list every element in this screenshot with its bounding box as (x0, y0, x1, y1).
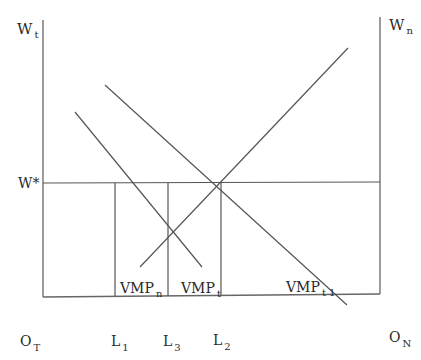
label-vmp-n-main: VMP (120, 280, 154, 296)
right-axis-label: Wn (389, 18, 413, 38)
curve-vmp-t1 (105, 85, 347, 305)
label-vmp-t1-main: VMP (286, 279, 320, 295)
curve-vmp-n (140, 48, 348, 267)
marker-l2-sub: 2 (224, 341, 230, 352)
label-vmp-n-sub: n (156, 288, 162, 299)
curve-vmp-t (75, 112, 202, 267)
marker-l1: L1 (111, 334, 129, 355)
label-vmp-t-sub: t (217, 288, 221, 299)
origin-right-sub: N (402, 338, 411, 349)
right-axis-label-sub: n (406, 25, 412, 36)
label-vmp-t-main: VMP (181, 280, 215, 296)
left-axis-label-main: W (17, 20, 32, 38)
wage-label-text: W* (18, 175, 39, 191)
origin-left-sub: T (33, 342, 40, 353)
left-axis-label: Wt (17, 22, 38, 42)
wage-label: W* (18, 176, 39, 190)
right-axis-label-main: W (389, 16, 404, 34)
origin-right-main: O (389, 329, 400, 345)
labor-allocation-diagram: Wt Wn W* OT ON L1 L3 L2 VMPn VMPt VMPt 1 (0, 0, 421, 360)
marker-l3-sub: 3 (174, 342, 180, 353)
left-axis-label-sub: t (34, 29, 38, 40)
marker-l3-main: L (163, 333, 172, 349)
marker-l2-main: L (213, 332, 222, 348)
marker-l1-sub: 1 (122, 342, 128, 353)
label-vmp-n: VMPn (120, 281, 162, 301)
marker-l2: L2 (213, 333, 231, 354)
diagram-canvas (0, 0, 421, 360)
origin-left-label: OT (20, 334, 40, 355)
marker-l3: L3 (163, 334, 181, 355)
marker-l1-main: L (111, 333, 120, 349)
label-vmp-t1: VMPt 1 (286, 280, 335, 300)
label-vmp-t: VMPt (181, 281, 221, 301)
origin-right-label: ON (389, 330, 411, 351)
origin-left-main: O (20, 333, 31, 349)
label-vmp-t1-sub: t 1 (322, 287, 336, 298)
